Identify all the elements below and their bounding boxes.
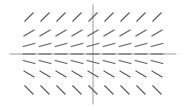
slope-segment (121, 86, 129, 94)
slope-segment (136, 30, 146, 36)
slope-segment (137, 86, 145, 94)
slope-segment (151, 44, 163, 47)
slope-segment (39, 44, 51, 47)
slope-segment (120, 71, 130, 77)
slope-segment (153, 86, 161, 94)
slope-segment (103, 44, 115, 47)
slope-segment (73, 13, 81, 21)
slope-segment (24, 30, 34, 36)
slope-segment (71, 44, 83, 47)
slope-segment (119, 61, 131, 64)
slope-segment (103, 61, 115, 64)
slope-segment (57, 13, 65, 21)
slope-segment (73, 86, 81, 94)
slope-segment (120, 30, 130, 36)
slope-segment (55, 44, 67, 47)
slope-segment (39, 61, 51, 64)
slope-segment (136, 71, 146, 77)
slope-segment (71, 61, 83, 64)
slope-segment (56, 30, 66, 36)
slope-segment (72, 71, 82, 77)
slope-segment (135, 61, 147, 64)
slope-segment (137, 13, 145, 21)
slope-segment (135, 44, 147, 47)
slope-segment (23, 44, 35, 47)
slope-segment (104, 30, 114, 36)
slope-segment (25, 86, 33, 94)
slope-segment (152, 30, 162, 36)
slope-segment (72, 30, 82, 36)
slope-segment (55, 61, 67, 64)
slope-segment (40, 71, 50, 77)
slope-segment (41, 86, 49, 94)
slope-segment (41, 13, 49, 21)
slope-segment (56, 71, 66, 77)
slope-segment (119, 44, 131, 47)
slope-segment (104, 71, 114, 77)
slope-segment (105, 13, 113, 21)
slope-field-diagram (0, 0, 186, 106)
slope-segment (153, 13, 161, 21)
slope-segment (25, 13, 33, 21)
slope-segment (121, 13, 129, 21)
slope-segment (105, 86, 113, 94)
slope-segment (23, 61, 35, 64)
slope-segment (40, 30, 50, 36)
slope-segment (57, 86, 65, 94)
slope-segment (24, 71, 34, 77)
slope-segment (151, 61, 163, 64)
slope-segment (152, 71, 162, 77)
